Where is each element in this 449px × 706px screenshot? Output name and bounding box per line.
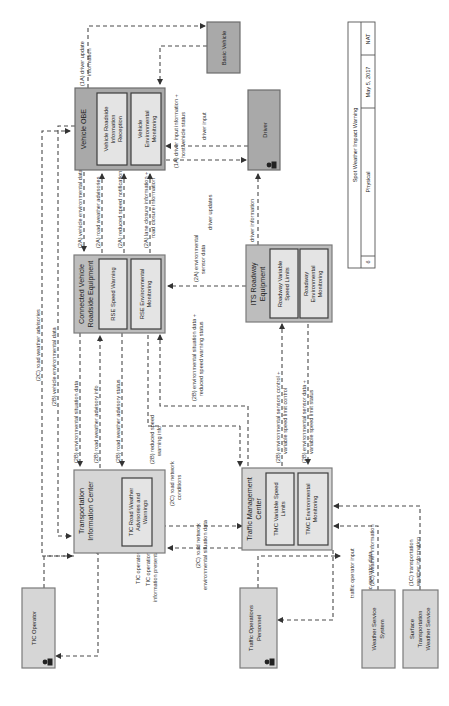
flow-2b-env-situation-reduced	[160, 335, 248, 466]
stws-title-3: Weather Service	[425, 608, 431, 651]
its-title-1: ITS Roadway	[249, 262, 258, 306]
label-2c-road-network-env: (2C) road network	[195, 523, 201, 568]
label-2a-lane-closure-2: road closure information	[150, 178, 156, 238]
tic-operator-title: TIC Operator	[31, 611, 37, 645]
label-driver-information: driver information	[249, 199, 255, 242]
flow-driver-input-host	[160, 46, 207, 84]
title-block-title: Spot Weather Impact Warning	[352, 108, 358, 183]
wss-title-1: Weather Service	[371, 608, 377, 651]
label-2c-weather-information: (2C) weather information	[369, 524, 375, 586]
entity-driver[interactable]: Driver	[248, 90, 280, 170]
title-block-date: May 5, 2017	[365, 67, 371, 98]
flow-traffic-operator-input	[258, 556, 340, 588]
flow-tic-operations-info	[56, 553, 98, 656]
label-2b-env-sensor-data-vsl-2: variable speed limit status	[308, 389, 314, 454]
flow-tic-operator-input	[44, 556, 72, 588]
cv-rse-title-2: Roadside Equipment	[86, 261, 95, 328]
entity-tic-operator[interactable]: TIC Operator	[22, 588, 55, 668]
label-2a-env-sensor: (2A) environmental	[193, 235, 199, 282]
label-tic-operations-info: TIC operations	[145, 549, 151, 586]
label-2b-reduced-speed-warning-2: warning info	[156, 426, 162, 457]
traffic-ops-title-2: Personnel	[256, 615, 262, 641]
label-1c-transportation-weather: (1C) transportation	[408, 539, 414, 586]
entity-traffic-ops-personnel[interactable]: Traffic Operations Personnel	[240, 588, 277, 668]
label-driver-input: driver input	[201, 112, 207, 140]
title-block: Spot Weather Impact Warning 6 Physical M…	[348, 22, 375, 268]
label-2c-road-network-conditions: (2C) road network	[169, 461, 175, 506]
label-2b-env-sensors-control-2: variable speed limit control	[282, 388, 288, 454]
stws-title-2: Transportation	[417, 610, 423, 647]
label-traffic-operator-input: traffic operator input	[349, 548, 355, 598]
vehicle-obe-title: Vehicle OBE	[79, 109, 88, 150]
label-2c-road-network-env-2: environmental situation data	[202, 519, 208, 590]
flow-driver-update	[88, 26, 205, 88]
label-1c-transportation-weather-2: weather information	[415, 537, 421, 587]
label-driver-input-host-2: host vehicle status	[180, 112, 186, 158]
label-driver-update: (1A) driver update	[79, 41, 85, 86]
entity-basic-vehicle[interactable]: Basic Vehicle	[207, 22, 240, 73]
entity-its-roadway[interactable]: ITS Roadway Equipment Roadway VariableSp…	[246, 245, 332, 322]
title-block-author: NAT	[365, 33, 371, 44]
entity-stws[interactable]: Surface Transportation Weather Service	[403, 590, 438, 668]
label-driver-update-2: information	[86, 48, 92, 76]
label-2b-reduced-speed-warning: (2B) reduced speed	[149, 415, 155, 464]
tic-title-2: Information Center	[86, 481, 95, 541]
flow-traffic-operator-data	[278, 550, 333, 620]
traffic-ops-title-1: Traffic Operations	[248, 605, 254, 651]
label-2a-vehicle-env-data: (2A) vehicle environmental data	[77, 168, 83, 248]
wss-title-2: System	[379, 619, 385, 638]
flow-2b-vehicle-env-data	[58, 126, 75, 536]
entity-cv-rse[interactable]: Connected Vehicle Roadside Equipment RSE…	[74, 255, 165, 333]
entity-vehicle-obe[interactable]: Vehicle OBE Vehicle RoadsideInformationR…	[75, 88, 165, 170]
title-block-view: Physical	[365, 172, 371, 193]
label-2b-env-sensor-data-vsl: (2B) environmental sensor data +	[301, 380, 307, 463]
tic-title-1: Transportation	[77, 488, 86, 534]
rse-speed-warning: RSE Speed Warning	[110, 267, 116, 320]
label-2b-road-weather-info: (2B) road weather advisory info	[93, 385, 99, 463]
label-2b-vehicle-env-data: (2B) vehicle environmental data	[51, 326, 57, 406]
entity-weather-service-system[interactable]: Weather Service System	[362, 590, 395, 668]
label-2a-lane-closure: (2A) lane closure information +	[143, 172, 149, 248]
driver-title: Driver	[262, 122, 268, 138]
label-2b-env-sensors-control: (2B) environmental sensors control +	[275, 371, 281, 463]
label-2b-env-situation-reduced: (2B) environmental situation data +	[191, 314, 197, 401]
title-block-sheet: 6	[365, 260, 371, 263]
entity-tmc[interactable]: Traffic Management Center TMC Variable S…	[242, 468, 332, 550]
tmc-title-1: Traffic Management	[245, 477, 254, 541]
label-2a-road-weather-adv: (2A) road weather advisories	[95, 176, 101, 248]
label-2a-reduced-speed: (2A) reduced speed notification	[117, 171, 123, 248]
basic-vehicle-title: Basic Vehicle	[221, 31, 227, 65]
its-sub-vsl: Roadway VariableSpeed Limits	[277, 261, 290, 308]
diagram-canvas: (1A) driver update information (1A) driv…	[0, 0, 449, 706]
label-driver-updates: driver updates	[207, 194, 213, 230]
label-2c-road-network-conditions-2: conditions	[176, 475, 182, 500]
label-2a-env-sensor-2: sensor data	[200, 244, 206, 274]
entity-tic[interactable]: Transportation Information Center TIC Ro…	[74, 470, 165, 553]
label-driver-input-host: (1A) driver input information +	[173, 94, 179, 168]
cv-rse-title-1: Connected Vehicle	[77, 264, 86, 324]
its-title-2: Equipment	[258, 267, 267, 301]
label-2b-env-situation: (2B) environmental situation data	[73, 380, 79, 463]
label-2b-road-weather-status: (2B) road weather advisory status	[115, 379, 121, 463]
tmc-title-2: Center	[254, 498, 263, 520]
label-2b-env-situation-reduced-2: reduced speed warning status	[198, 321, 204, 396]
stws-title-1: Surface	[409, 619, 415, 639]
label-2c-road-weather-adv: (2C) road weather advisories	[35, 309, 41, 381]
